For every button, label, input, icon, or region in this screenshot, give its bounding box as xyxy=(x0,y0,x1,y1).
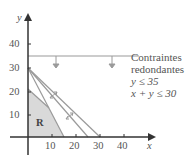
y-tick-10: 10 xyxy=(9,109,20,120)
arrow-down-icon xyxy=(53,56,115,68)
plot-canvas xyxy=(0,0,193,163)
x-tick-10: 10 xyxy=(45,140,56,151)
x-tick-30: 30 xyxy=(93,140,104,151)
y-axis-arrow-icon xyxy=(24,13,32,21)
feasible-region xyxy=(28,89,64,137)
x-tick-40: 40 xyxy=(117,140,128,151)
region-label: R xyxy=(36,117,44,128)
annotation-eq-1: y ≤ 35 xyxy=(131,75,158,87)
y-tick-30: 30 xyxy=(9,62,20,73)
x-axis-label: x xyxy=(147,140,152,151)
y-axis-label: y xyxy=(17,12,22,23)
annotation-eq-2: x + y ≤ 30 xyxy=(131,87,176,99)
x-tick-20: 20 xyxy=(69,140,80,151)
y-tick-40: 40 xyxy=(9,38,20,49)
annotation-title-1: Contraintes xyxy=(131,51,182,63)
y-tick-20: 20 xyxy=(9,86,20,97)
annotation-title-2: redondantes xyxy=(131,63,184,75)
